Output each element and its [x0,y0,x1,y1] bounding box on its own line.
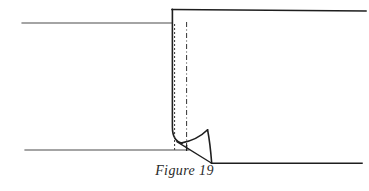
figure-caption: Figure 19 [0,163,369,179]
figure-container: Figure 19 [0,0,369,191]
